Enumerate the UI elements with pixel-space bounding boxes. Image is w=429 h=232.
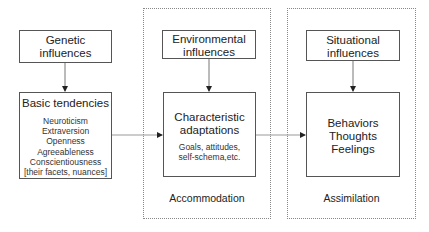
environmental-label-line1: Environmental [163, 33, 255, 46]
genetic-label-line2: influences [20, 47, 111, 60]
trait-conscientiousness: Conscientiousness [20, 157, 111, 167]
trait-extraversion: Extraversion [20, 126, 111, 136]
basic-tendencies-box: Basic tendencies Neuroticism Extraversio… [19, 92, 112, 179]
characteristic-title-line2: adaptations [164, 124, 255, 137]
trait-agreeableness: Agreeableness [20, 147, 111, 157]
behaviors-box: Behaviors Thoughts Feelings [306, 92, 400, 177]
situational-label-line1: Situational [307, 34, 399, 47]
situational-influences-box: Situational influences [306, 30, 400, 61]
characteristic-detail-line1: Goals, attitudes, [164, 142, 255, 152]
trait-openness: Openness [20, 136, 111, 146]
characteristic-title-line1: Characteristic [164, 111, 255, 124]
behaviors-line3: Feelings [307, 143, 399, 156]
trait-facets-nuances: [their facets, nuances] [20, 167, 111, 177]
characteristic-adaptations-box: Characteristic adaptations Goals, attitu… [163, 92, 256, 177]
behaviors-line2: Thoughts [307, 130, 399, 143]
basic-tendencies-title: Basic tendencies [20, 97, 111, 110]
genetic-label-line1: Genetic [20, 34, 111, 47]
genetic-influences-box: Genetic influences [19, 30, 112, 63]
situational-label-line2: influences [307, 47, 399, 60]
trait-neuroticism: Neuroticism [20, 116, 111, 126]
characteristic-detail-line2: self-schema,etc. [164, 152, 255, 162]
behaviors-line1: Behaviors [307, 117, 399, 130]
environmental-influences-box: Environmental influences [162, 30, 256, 59]
environmental-label-line2: influences [163, 46, 255, 59]
